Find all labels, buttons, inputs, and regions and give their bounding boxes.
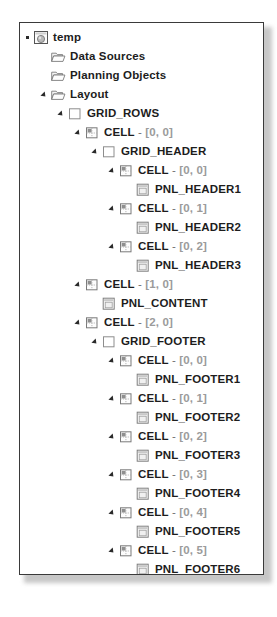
- panel-window-icon: [136, 221, 151, 235]
- open-folder-icon: [51, 69, 66, 83]
- tree-node[interactable]: CELL - [0, 2]: [20, 427, 263, 446]
- tree-node-name: CELL: [104, 126, 135, 138]
- tree-node-name: CELL: [138, 430, 169, 442]
- expand-collapse-triangle-icon[interactable]: [108, 507, 119, 518]
- tree-node-label: PNL_HEADER2: [155, 221, 241, 234]
- expand-collapse-triangle-icon[interactable]: [108, 355, 119, 366]
- cell-icon: [119, 392, 134, 406]
- tree-node-name: PNL_FOOTER4: [155, 487, 240, 499]
- tree-node-name: PNL_FOOTER2: [155, 411, 240, 423]
- tree-node-separator: -: [169, 468, 180, 480]
- tree-node[interactable]: CELL - [0, 2]: [20, 237, 263, 256]
- tree-node-coordinate: [0, 3]: [179, 468, 207, 480]
- tree-node[interactable]: CELL - [0, 0]: [20, 123, 263, 142]
- tree-node-name: Layout: [70, 88, 109, 100]
- tree-node[interactable]: PNL_HEADER2: [20, 218, 263, 237]
- screenshot-root: tempData SourcesPlanning ObjectsLayoutGR…: [0, 0, 277, 617]
- twisty-spacer: [125, 374, 136, 385]
- tree-node-label: CELL - [0, 5]: [138, 544, 207, 557]
- expand-collapse-triangle-icon[interactable]: [74, 317, 85, 328]
- tree-node[interactable]: PNL_HEADER1: [20, 180, 263, 199]
- expand-collapse-triangle-icon[interactable]: [108, 393, 119, 404]
- tree-node[interactable]: PNL_HEADER3: [20, 256, 263, 275]
- tree-node[interactable]: PNL_FOOTER5: [20, 522, 263, 541]
- tree-node[interactable]: CELL - [0, 1]: [20, 199, 263, 218]
- open-folder-icon: [51, 88, 66, 102]
- tree-node-label: CELL - [0, 1]: [138, 392, 207, 405]
- tree-node[interactable]: PNL_FOOTER3: [20, 446, 263, 465]
- tree-node-name: GRID_HEADER: [121, 145, 206, 157]
- expand-collapse-triangle-icon[interactable]: [91, 336, 102, 347]
- tree-node-label: GRID_FOOTER: [121, 335, 206, 348]
- expand-collapse-triangle-icon[interactable]: [74, 279, 85, 290]
- tree-node[interactable]: Data Sources: [20, 47, 263, 66]
- tree-node[interactable]: CELL - [2, 0]: [20, 313, 263, 332]
- tree-node-name: GRID_ROWS: [87, 107, 159, 119]
- tree-node-coordinate: [0, 2]: [179, 430, 207, 442]
- tree-node-separator: -: [169, 202, 180, 214]
- twisty-spacer: [40, 51, 51, 62]
- tree-node-label: CELL - [0, 3]: [138, 468, 207, 481]
- tree-node[interactable]: GRID_FOOTER: [20, 332, 263, 351]
- expand-collapse-triangle-icon[interactable]: [74, 127, 85, 138]
- twisty-spacer: [125, 412, 136, 423]
- tree-node-name: PNL_FOOTER6: [155, 563, 240, 575]
- tree-node[interactable]: CELL - [1, 0]: [20, 275, 263, 294]
- tree-node-label: CELL - [0, 4]: [138, 506, 207, 519]
- tree-node-coordinate: [0, 0]: [145, 126, 173, 138]
- tree-node[interactable]: Layout: [20, 85, 263, 104]
- tree-node-coordinate: [0, 0]: [179, 164, 207, 176]
- expand-collapse-triangle-icon[interactable]: [40, 89, 51, 100]
- tree-node-label: PNL_FOOTER5: [155, 525, 240, 538]
- tree-node-name: Data Sources: [70, 50, 145, 62]
- tree-node[interactable]: PNL_FOOTER4: [20, 484, 263, 503]
- expand-collapse-triangle-icon[interactable]: [57, 108, 68, 119]
- twisty-spacer: [125, 260, 136, 271]
- tree-node-separator: -: [169, 354, 180, 366]
- twisty-spacer: [125, 564, 136, 575]
- tree-node[interactable]: CELL - [0, 3]: [20, 465, 263, 484]
- expand-collapse-triangle-icon[interactable]: [108, 241, 119, 252]
- tree-node-label: CELL - [0, 0]: [138, 354, 207, 367]
- tree-node[interactable]: GRID_ROWS: [20, 104, 263, 123]
- expand-collapse-triangle-icon[interactable]: [108, 431, 119, 442]
- tree-node[interactable]: PNL_FOOTER2: [20, 408, 263, 427]
- tree-node-coordinate: [0, 0]: [179, 354, 207, 366]
- node-marker-dot-icon[interactable]: [23, 32, 34, 43]
- tree-node[interactable]: CELL - [0, 4]: [20, 503, 263, 522]
- expand-collapse-triangle-icon[interactable]: [108, 469, 119, 480]
- expand-collapse-triangle-icon[interactable]: [91, 146, 102, 157]
- tree-node[interactable]: PNL_FOOTER1: [20, 370, 263, 389]
- tree-node-label: temp: [53, 31, 81, 44]
- tree-node[interactable]: CELL - [0, 0]: [20, 351, 263, 370]
- tree-node[interactable]: temp: [20, 28, 263, 47]
- panel-window-icon: [136, 563, 151, 576]
- tree-node[interactable]: GRID_HEADER: [20, 142, 263, 161]
- tree-node[interactable]: CELL - [0, 5]: [20, 541, 263, 560]
- twisty-spacer: [40, 70, 51, 81]
- tree-node-separator: -: [169, 506, 180, 518]
- tree-node[interactable]: CELL - [0, 1]: [20, 389, 263, 408]
- tree-node-label: PNL_FOOTER1: [155, 373, 240, 386]
- panel-window-icon: [136, 373, 151, 387]
- tree-node-coordinate: [0, 1]: [179, 202, 207, 214]
- panel-window-icon: [136, 259, 151, 273]
- tree-node-name: PNL_HEADER1: [155, 183, 241, 195]
- tree-node[interactable]: PNL_FOOTER6: [20, 560, 263, 575]
- panel-window-icon: [136, 183, 151, 197]
- cell-icon: [85, 126, 100, 140]
- tree-node-separator: -: [135, 126, 146, 138]
- tree-node[interactable]: PNL_CONTENT: [20, 294, 263, 313]
- tree-node-label: CELL - [0, 1]: [138, 202, 207, 215]
- object-tree-panel: tempData SourcesPlanning ObjectsLayoutGR…: [19, 22, 264, 575]
- expand-collapse-triangle-icon[interactable]: [108, 545, 119, 556]
- expand-collapse-triangle-icon[interactable]: [108, 203, 119, 214]
- expand-collapse-triangle-icon[interactable]: [108, 165, 119, 176]
- tree-node-label: PNL_HEADER1: [155, 183, 241, 196]
- tree-node[interactable]: Planning Objects: [20, 66, 263, 85]
- panel-window-icon: [136, 525, 151, 539]
- tree-node-label: Layout: [70, 88, 109, 101]
- twisty-spacer: [125, 526, 136, 537]
- sphere-object-icon: [34, 31, 49, 45]
- tree-node[interactable]: CELL - [0, 0]: [20, 161, 263, 180]
